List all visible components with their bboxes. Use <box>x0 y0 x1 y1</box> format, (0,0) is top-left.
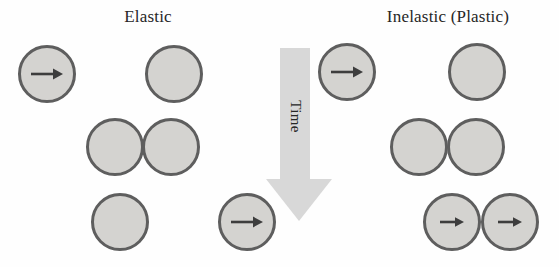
elastic-before-moving-ball <box>18 45 76 103</box>
velocity-arrow-icon <box>439 216 465 228</box>
inelastic-collision-left-ball <box>390 118 448 176</box>
elastic-before-target-ball <box>145 45 203 103</box>
velocity-arrow-icon <box>497 216 523 228</box>
inelastic-panel-title: Inelastic (Plastic) <box>368 7 528 27</box>
elastic-after-stopped-ball <box>91 193 149 251</box>
velocity-arrow-icon <box>30 67 64 81</box>
elastic-collision-right-ball <box>142 118 200 176</box>
inelastic-collision-right-ball <box>447 118 505 176</box>
elastic-panel-title: Elastic <box>88 7 208 27</box>
velocity-arrow-icon <box>230 215 264 229</box>
elastic-after-moving-ball <box>218 193 276 251</box>
collision-diagram: Elastic Inelastic (Plastic) Time <box>0 0 559 267</box>
inelastic-before-target-ball <box>448 43 506 101</box>
time-label: Time <box>287 82 304 152</box>
elastic-collision-left-ball <box>86 118 144 176</box>
inelastic-after-left-ball <box>423 193 481 251</box>
velocity-arrow-icon <box>330 65 364 79</box>
inelastic-before-moving-ball <box>318 43 376 101</box>
inelastic-after-right-ball <box>481 193 539 251</box>
time-arrow-head-icon <box>266 179 332 221</box>
